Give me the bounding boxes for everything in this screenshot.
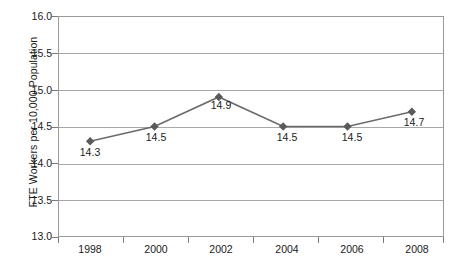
x-tick-mark	[383, 237, 384, 243]
y-axis-tick-labels: 16.0 15.5 15.0 14.5 14.0 13.5 13.0	[12, 0, 52, 268]
data-point-label: 14.7	[384, 116, 444, 128]
data-point-label: 14.5	[322, 131, 382, 143]
data-point-label: 14.5	[257, 131, 317, 143]
x-tick-mark	[58, 237, 59, 243]
x-tick-mark	[253, 237, 254, 243]
y-tick-label: 14.5	[18, 121, 52, 132]
x-tick-mark	[188, 237, 189, 243]
x-tick-label: 2002	[191, 243, 251, 255]
gridline	[59, 53, 443, 54]
y-tick-label: 16.0	[18, 11, 52, 22]
y-tick-label: 13.5	[18, 195, 52, 206]
data-point-label: 14.9	[191, 99, 251, 111]
y-tick-label: 15.0	[18, 85, 52, 96]
x-tick-label: 2000	[126, 243, 186, 255]
x-tick-mark	[318, 237, 319, 243]
gridline	[59, 90, 443, 91]
x-tick-label: 2004	[257, 243, 317, 255]
gridline	[59, 164, 443, 165]
y-tick-label: 14.0	[18, 158, 52, 169]
gridline	[59, 200, 443, 201]
line-chart: FTE Workers per 10,000 Population 16.0 1…	[0, 0, 459, 268]
data-point-label: 14.3	[60, 146, 120, 158]
x-tick-label: 2008	[387, 243, 447, 255]
x-tick-label: 2006	[322, 243, 382, 255]
x-tick-label: 1998	[60, 243, 120, 255]
data-point-label: 14.5	[126, 131, 186, 143]
x-tick-mark	[123, 237, 124, 243]
y-tick-label: 13.0	[18, 231, 52, 242]
y-tick-label: 15.5	[18, 48, 52, 59]
